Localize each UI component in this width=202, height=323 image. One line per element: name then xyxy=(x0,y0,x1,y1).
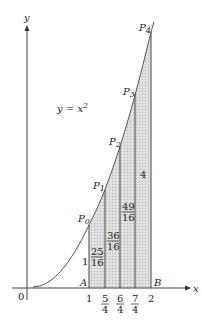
origin-label: 0 xyxy=(18,291,24,302)
x-axis-label: x xyxy=(193,283,199,294)
height-label-49-16-den: 16 xyxy=(122,212,135,223)
x-tick-7-4-den: 4 xyxy=(132,304,138,315)
point-p2-label: P2 xyxy=(108,136,121,149)
point-p4-label: P4 xyxy=(138,22,151,35)
x-tick-5-4-den: 4 xyxy=(102,304,108,315)
y-axis-arrow-icon xyxy=(25,25,30,31)
x-tick-7-4-num: 7 xyxy=(132,293,138,304)
height-label-36-16-den: 16 xyxy=(107,241,120,252)
curve-label: y = x2 xyxy=(56,101,88,114)
point-b-label: B xyxy=(153,277,161,288)
x-axis-arrow-icon xyxy=(185,286,191,291)
height-label-1: 1 xyxy=(82,256,88,267)
x-tick-2: 2 xyxy=(148,293,154,304)
x-tick-6-4-num: 6 xyxy=(117,293,123,304)
x-tick-5-4-num: 5 xyxy=(102,293,108,304)
x-tick-1: 1 xyxy=(86,293,92,304)
height-label-49-16-num: 49 xyxy=(122,201,135,212)
point-p1-label: P1 xyxy=(92,180,105,193)
height-label-25-16-den: 16 xyxy=(91,257,104,268)
height-label-4: 4 xyxy=(140,169,146,180)
parabola-diagram: y x 0 y = x2 A B P0 P1 P2 P3 P4 1 5 4 6 … xyxy=(0,0,202,323)
height-label-25-16-num: 25 xyxy=(91,246,104,257)
height-label-36-16-num: 36 xyxy=(107,230,120,241)
point-p3-label: P3 xyxy=(122,86,135,99)
point-a-label: A xyxy=(79,277,87,288)
point-p0-label: P0 xyxy=(77,213,90,226)
y-axis-label: y xyxy=(23,12,30,23)
x-tick-6-4-den: 4 xyxy=(117,304,123,315)
